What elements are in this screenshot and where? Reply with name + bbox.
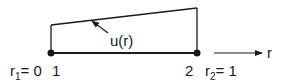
element-diagram: u(r) r r1= 0 1 2 r2= 1	[0, 0, 284, 84]
function-pointer-arrow	[92, 21, 108, 33]
coord-subscript: 2	[210, 71, 216, 82]
diagram-graphics	[0, 0, 284, 84]
node-1-coord: r1= 0	[10, 63, 42, 78]
axis-label: r	[267, 45, 272, 60]
node-2-coord: r2= 1	[205, 63, 237, 78]
node-2-label: 2	[185, 63, 193, 78]
node-1-label: 1	[52, 63, 60, 78]
coord-subscript: 1	[15, 71, 21, 82]
coord-value: = 0	[21, 62, 42, 79]
function-label: u(r)	[110, 33, 133, 48]
coord-value: = 1	[216, 62, 237, 79]
function-line	[51, 8, 197, 25]
node-1-dot	[48, 50, 55, 57]
node-2-dot	[194, 50, 201, 57]
